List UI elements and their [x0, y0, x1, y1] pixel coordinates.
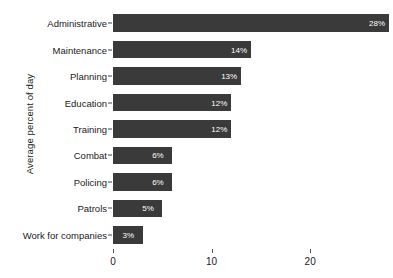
- bar-value-label: 28%: [369, 19, 385, 28]
- category-tick-mark: [108, 181, 112, 182]
- x-tick-label: 10: [206, 256, 217, 267]
- bar-value-label: 12%: [211, 124, 227, 133]
- x-tick-mark: [212, 249, 213, 253]
- category-tick-mark: [108, 208, 112, 209]
- bar-row: Education12%: [113, 94, 391, 111]
- bar: [113, 200, 162, 217]
- category-tick-mark: [108, 76, 112, 77]
- bar-value-label: 13%: [221, 72, 237, 81]
- plot-area: Administrative28%Maintenance14%Planning1…: [113, 10, 391, 248]
- category-tick-mark: [108, 49, 112, 50]
- bar-value-label: 6%: [152, 177, 164, 186]
- bar: [113, 14, 389, 31]
- bar-value-label: 6%: [152, 151, 164, 160]
- bar-row: Administrative28%: [113, 14, 391, 31]
- bar-row: Policing6%: [113, 173, 391, 190]
- category-label: Administrative: [47, 18, 107, 29]
- bar-value-label: 12%: [211, 98, 227, 107]
- category-label: Work for companies: [23, 229, 107, 240]
- bar-row: Patrols5%: [113, 200, 391, 217]
- category-label: Maintenance: [53, 44, 107, 55]
- bar-value-label: 5%: [142, 204, 154, 213]
- category-tick-mark: [108, 128, 112, 129]
- x-tick-label: 0: [110, 256, 116, 267]
- bar-row: Maintenance14%: [113, 41, 391, 58]
- category-tick-mark: [108, 234, 112, 235]
- bar-row: Training12%: [113, 120, 391, 137]
- bar-row: Combat6%: [113, 147, 391, 164]
- category-tick-mark: [108, 102, 112, 103]
- category-label: Combat: [74, 150, 107, 161]
- category-tick-mark: [108, 23, 112, 24]
- x-tick-mark: [310, 249, 311, 253]
- bar-row: Work for companies3%: [113, 226, 391, 243]
- bar-chart: Average percent of day Administrative28%…: [0, 0, 393, 278]
- x-tick-label: 20: [305, 256, 316, 267]
- bar-row: Planning13%: [113, 67, 391, 84]
- x-tick-mark: [113, 249, 114, 253]
- category-tick-mark: [108, 155, 112, 156]
- bar-value-label: 3%: [123, 230, 135, 239]
- category-label: Training: [73, 123, 107, 134]
- category-label: Education: [65, 97, 107, 108]
- category-label: Planning: [70, 71, 107, 82]
- category-label: Policing: [74, 176, 107, 187]
- x-axis: 01020: [113, 249, 391, 277]
- bar-value-label: 14%: [231, 45, 247, 54]
- y-axis-title: Average percent of day: [22, 0, 38, 248]
- category-label: Patrols: [77, 203, 107, 214]
